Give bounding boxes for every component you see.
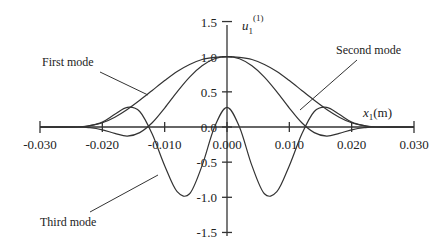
third-mode-leader — [90, 175, 158, 212]
first-mode-leader — [100, 72, 148, 95]
first-mode-label: First mode — [42, 55, 94, 69]
x-tick-label: 0.000 — [212, 137, 241, 152]
x-tick-label: -0.010 — [148, 137, 182, 152]
x-tick-label: -0.020 — [86, 137, 120, 152]
y-tick-label: -0.5 — [196, 155, 217, 170]
y-tick-label: -1.5 — [196, 225, 217, 240]
y-axis — [222, 22, 232, 236]
x-axis-label: x1(m) — [362, 105, 392, 122]
y-tick-label: -1.0 — [196, 190, 217, 205]
x-tick-label: 0.020 — [337, 137, 366, 152]
y-axis-label: u1(1) — [242, 13, 264, 36]
chart-canvas: -0.030-0.020-0.0100.0000.0100.0200.030 1… — [0, 0, 447, 244]
second-mode-leader — [300, 60, 357, 110]
x-tick-label: 0.030 — [399, 137, 428, 152]
y-tick-label: 0.5 — [201, 85, 217, 100]
y-tick-label: 1.5 — [201, 15, 217, 30]
x-tick-label: -0.030 — [23, 137, 57, 152]
x-tick-labels: -0.030-0.020-0.0100.0000.0100.0200.030 — [23, 137, 428, 152]
second-mode-label: Second mode — [336, 43, 401, 57]
third-mode-label: Third mode — [40, 215, 96, 229]
